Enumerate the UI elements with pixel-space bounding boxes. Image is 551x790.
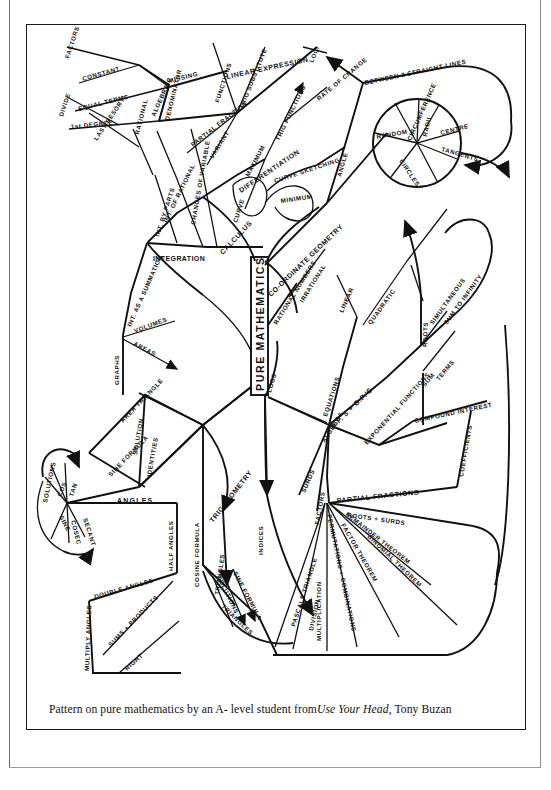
svg-text:RANDOM: RANDOM (376, 128, 408, 140)
svg-text:AREAS: AREAS (133, 340, 158, 358)
svg-text:MINIMUM: MINIMUM (280, 193, 313, 204)
center-node: PURE MATHEMATICS (251, 256, 268, 395)
svg-text:SINE: SINE (58, 514, 72, 532)
svg-text:SINE FORMULA: SINE FORMULA (107, 434, 150, 478)
branch-trigonometry: TRIGONOMETRY AREA TRIANGLE SOLUTION IDEN… (37, 377, 293, 673)
svg-text:CONSTANT: CONSTANT (81, 65, 120, 82)
svg-text:LOCI: LOCI (307, 45, 320, 64)
svg-text:PARTIAL FRACTIONS: PARTIAL FRACTIONS (336, 488, 419, 504)
svg-text:ANGLES: ANGLES (117, 497, 153, 504)
page-edge-left (9, 0, 10, 768)
svg-text:COMPOUND INTEREST: COMPOUND INTEREST (414, 401, 493, 424)
svg-text:CENTRE: CENTRE (440, 122, 470, 136)
svg-text:EXPONENTIAL FUNCTIONS: EXPONENTIAL FUNCTIONS (363, 371, 431, 446)
branch-circles: CIRCUMFERENCE RADII CENTRE TANGENTS CIRC… (373, 82, 511, 188)
svg-text:FACTORS: FACTORS (63, 25, 80, 59)
svg-text:DOUBLE ANGLES: DOUBLE ANGLES (93, 576, 154, 600)
svg-text:CURVE: CURVE (231, 198, 245, 224)
page-edge-bottom (9, 767, 541, 768)
svg-text:SUMS + PRODUCTS: SUMS + PRODUCTS (107, 593, 160, 647)
svg-text:COSINE FORMULA: COSINE FORMULA (193, 522, 200, 587)
figure-frame: .ln{stroke:#111;stroke-width:1.3;fill:no… (26, 24, 526, 730)
svg-text:DIVIDE: DIVIDE (57, 92, 71, 117)
svg-text:IDENTITIES: IDENTITIES (145, 437, 159, 478)
svg-text:BETWEEN 2 STRAIGHT LINES: BETWEEN 2 STRAIGHT LINES (364, 58, 467, 86)
svg-text:SOLUTIONS: SOLUTIONS (41, 461, 56, 503)
svg-text:COSEC: COSEC (70, 520, 83, 546)
svg-text:HALF ANGLES: HALF ANGLES (167, 521, 174, 571)
svg-text:COEFFICIENTS: COEFFICIENTS (457, 424, 473, 477)
svg-text:CALCULUS: CALCULUS (219, 219, 254, 255)
svg-text:SURDS: SURDS (300, 468, 316, 493)
svg-text:TERMS: TERMS (434, 358, 455, 381)
svg-text:QUADRATIC: QUADRATIC (366, 287, 396, 325)
svg-text:RATIONAL: RATIONAL (133, 98, 149, 135)
page-edge-right (540, 0, 541, 768)
svg-text:AREA TRIANGLE: AREA TRIANGLE (119, 377, 165, 424)
svg-text:SECANT: SECANT (82, 517, 98, 547)
caption-lead: Pattern on pure mathematics by an A- lev… (49, 703, 317, 716)
svg-text:1st DEGREE: 1st DEGREE (70, 119, 113, 130)
mindmap-diagram: .ln{stroke:#111;stroke-width:1.3;fill:no… (27, 25, 525, 685)
figure-caption: Pattern on pure mathematics by an A- lev… (27, 687, 525, 731)
svg-text:TAN: TAN (67, 482, 78, 498)
svg-text:INDICES: INDICES (257, 526, 264, 555)
center-label: PURE MATHEMATICS (254, 256, 266, 391)
svg-text:RIGHT: RIGHT (123, 652, 144, 672)
mindmap-svg: .ln{stroke:#111;stroke-width:1.3;fill:no… (27, 25, 525, 685)
svg-text:TRIG FUNCTIONS: TRIG FUNCTIONS (274, 84, 307, 142)
svg-text:TRIGONOMETRY: TRIGONOMETRY (208, 469, 253, 524)
svg-text:CHANGES OF VARIABLE: CHANGES OF VARIABLE (189, 140, 211, 225)
caption-book-title: Use Your Head (317, 703, 389, 716)
scanned-page: .ln{stroke:#111;stroke-width:1.3;fill:no… (0, 0, 551, 790)
svg-text:FUNCTIONS: FUNCTIONS (213, 62, 232, 104)
svg-text:LINEAR: LINEAR (338, 286, 355, 313)
svg-text:RADII: RADII (421, 116, 432, 137)
svg-text:GRAPHS: GRAPHS (113, 355, 120, 385)
caption-tail: , Tony Buzan (389, 703, 452, 716)
branch-calculus: CALCULUS DIFFERENTIATION INTEGRATION INT… (57, 25, 368, 395)
svg-text:MULTIPLY ANGLES: MULTIPLY ANGLES (83, 605, 92, 671)
svg-text:CIRCLES: CIRCLES (398, 158, 421, 188)
svg-text:LINEAR EXPRESSION: LINEAR EXPRESSION (226, 56, 309, 80)
